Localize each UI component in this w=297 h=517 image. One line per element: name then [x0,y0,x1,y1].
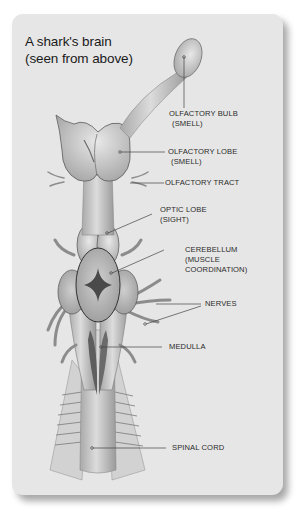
label-nerves: NERVES [205,299,237,309]
cerebellum [76,248,120,322]
olfactory-lobes [56,115,130,181]
shark-brain-illustration [0,0,297,517]
label-cerebellum: CEREBELLUM (MUSCLE COORDINATION) [185,245,247,275]
label-spinal-cord: SPINAL CORD [172,443,224,453]
label-optic-lobe: OPTIC LOBE (SIGHT) [160,205,207,225]
label-medulla: MEDULLA [169,342,206,352]
label-olfactory-lobe: OLFACTORY LOBE (SMELL) [168,147,237,167]
label-olfactory-bulb: OLFACTORY BULB (SMELL) [169,109,238,129]
label-olfactory-tract: OLFACTORY TRACT [165,178,239,188]
